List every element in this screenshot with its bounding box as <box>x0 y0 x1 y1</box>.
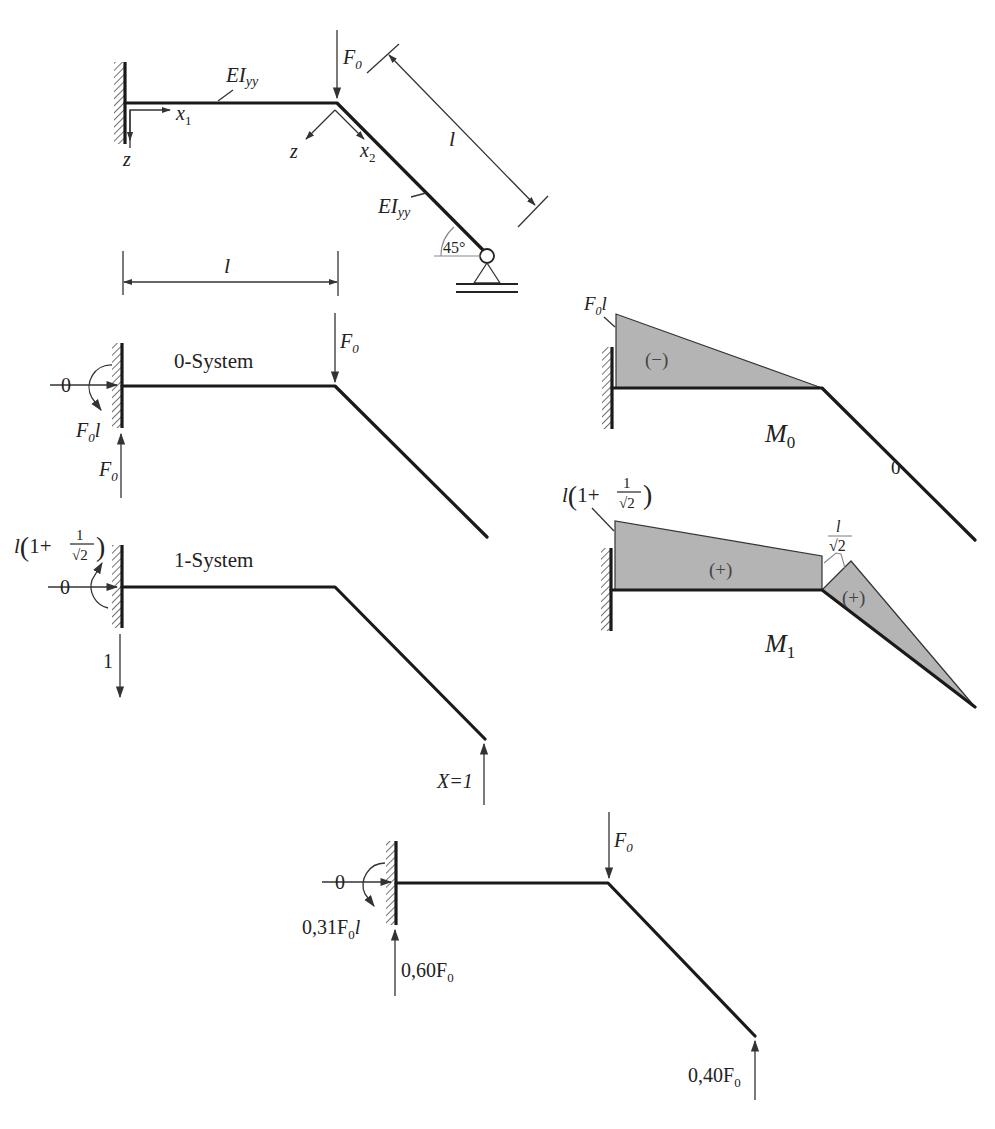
system-title: 1-System <box>174 548 253 572</box>
moment-reaction-arc <box>363 863 385 906</box>
angle-label: 45° <box>443 239 465 256</box>
support-triangle <box>474 263 500 283</box>
horizontal-reaction-label: 0 <box>335 871 345 893</box>
max-paren-close: ) <box>643 479 652 510</box>
final-system: F0 0 0,31F0l 0,60F0 0,40F0 <box>302 812 755 1100</box>
inclined-zero-label: 0 <box>891 457 901 478</box>
moment-area-inclined <box>822 561 975 707</box>
max-frac-num: 1 <box>623 475 631 491</box>
moment-sign-horizontal: (+) <box>709 559 732 581</box>
frame-beam <box>122 587 485 739</box>
moment-reaction-arc <box>91 563 108 608</box>
pin-support <box>480 249 494 263</box>
corner-frac-den: √2 <box>829 537 846 554</box>
dim-inclined-line <box>389 55 535 205</box>
stiffness-label-1: EIyy <box>225 63 259 89</box>
stiffness-leader-1 <box>218 90 233 101</box>
moment-paren-close: ) <box>96 531 105 562</box>
support-reaction-label: 0,40F0 <box>688 1064 741 1090</box>
dim-inclined-tick-2 <box>518 196 548 227</box>
horizontal-reaction-label: 0 <box>60 576 70 598</box>
vertical-reaction-label: 1 <box>103 650 113 672</box>
max-value-leader <box>604 317 615 327</box>
moment-reaction-arc <box>89 365 112 410</box>
axis-x1-label: x1 <box>175 102 191 128</box>
corner-leader <box>824 553 845 568</box>
moment-sign: (−) <box>645 349 668 371</box>
corner-frac-num: l <box>836 518 841 535</box>
moment-reaction-label: F0l <box>75 419 101 445</box>
frame-beam <box>125 103 485 252</box>
frame-beam <box>396 883 755 1036</box>
dim-inclined-label: l <box>449 126 455 151</box>
load-label: F0 <box>339 330 359 356</box>
moment-diagram-m0: F0l (−) M0 0 <box>583 293 975 540</box>
one-system: 1-System 0 l(1+ 1 √2 ) 1 X=1 <box>14 527 485 805</box>
moment-sign-inclined: (+) <box>842 587 865 609</box>
max-value-leader <box>592 508 614 531</box>
fixed-wall-hatch <box>602 347 611 429</box>
load-label: F0 <box>613 829 633 855</box>
fixed-wall-hatch <box>386 841 395 925</box>
axis-x1-arrow <box>130 110 170 148</box>
dim-horizontal-label: l <box>224 253 230 278</box>
frame-beam <box>612 388 975 540</box>
moment-reaction-label: l(1+ <box>14 531 52 562</box>
original-system: 45° F0 EIyy EIyy x1 z z x2 l l <box>114 30 548 296</box>
axis-z1-label: z <box>122 148 131 170</box>
system-title: 0-System <box>174 349 253 373</box>
max-frac-den: √2 <box>619 495 635 511</box>
axis-z2-arrow <box>306 110 335 139</box>
max-value-label: l(1+ <box>562 480 600 511</box>
stiffness-label-2: EIyy <box>377 194 411 220</box>
moment-frac-num: 1 <box>76 527 84 543</box>
horizontal-reaction-label: 0 <box>61 374 71 396</box>
fixed-wall-hatch <box>114 62 124 144</box>
max-value-label: F0l <box>583 293 607 318</box>
fixed-wall-hatch <box>601 548 610 631</box>
vertical-reaction-label: 0,60F0 <box>401 959 454 985</box>
frame-beam <box>122 386 487 537</box>
diagram-title: M1 <box>764 629 795 662</box>
diagram-title: M0 <box>764 419 795 452</box>
vertical-reaction-label: F0 <box>98 458 118 484</box>
load-label: F0 <box>342 46 362 72</box>
moment-reaction-label: 0,31F0l <box>302 916 361 942</box>
moment-diagram-m1: l(1+ 1 √2 ) l √2 (+) (+) M1 <box>562 475 975 707</box>
axis-x2-label: x2 <box>359 139 375 165</box>
zero-system: 0-System F0 0 F0l F0 <box>50 313 487 537</box>
moment-frac-den: √2 <box>72 547 88 563</box>
dim-inclined-tick-1 <box>367 44 399 73</box>
axis-z2-label: z <box>289 140 298 162</box>
stiffness-leader-2 <box>411 193 426 197</box>
redundant-force-label: X=1 <box>436 770 473 792</box>
